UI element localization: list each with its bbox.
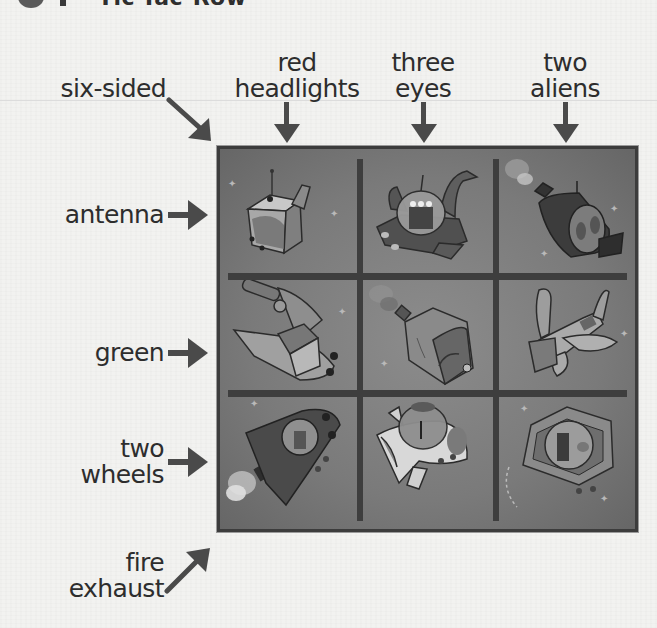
tic-tac-toe-board: ✦ ✦ ✦ ✦ ✦ ✦ ✦ ✦ ✦ ✦ (217, 146, 638, 532)
arrow-down-icon (409, 102, 439, 144)
clue-label-line2: headlights (232, 76, 362, 102)
white-dome-spaceship-icon (363, 397, 493, 527)
grid-cell-r0-c2[interactable] (499, 149, 634, 267)
clue-label-line1: fire (40, 550, 164, 576)
arrow-down-icon (272, 102, 302, 144)
arrow-right-icon (168, 198, 208, 232)
clue-label: antenna (65, 200, 164, 229)
clue-label-line2: exhaust (40, 576, 164, 602)
dome-spaceship-icon (363, 149, 493, 273)
clue-label-line2: eyes (368, 76, 478, 102)
clue-red-headlights: red headlights (232, 50, 362, 102)
winged-spaceship-icon (499, 280, 634, 390)
dark-spaceship-two-aliens-icon (499, 149, 634, 273)
hexagonal-spaceship-icon (363, 280, 493, 390)
puzzle-number-badge-icon (18, 0, 44, 8)
clue-label-line1: red (232, 50, 362, 76)
grid-cell-r0-c1[interactable] (363, 149, 498, 267)
clue-label: green (95, 338, 164, 367)
clue-two-aliens: two aliens (510, 50, 620, 102)
page-header: Tic-Tac-Row (0, 0, 657, 10)
clue-label-line1: two (510, 50, 620, 76)
clue-label-line2: aliens (510, 76, 620, 102)
clue-fire-exhaust: fire exhaust (40, 550, 164, 602)
clue-label-line2: wheels (40, 462, 164, 488)
clue-label-line1: two (40, 436, 164, 462)
grid-cell-r2-c2[interactable] (499, 397, 634, 515)
grid-cell-r1-c2[interactable] (499, 280, 634, 398)
clue-two-wheels: two wheels (40, 436, 164, 488)
clue-label: six-sided (61, 74, 166, 103)
grid-cell-r0-c0[interactable] (222, 149, 357, 267)
clue-label-line1: three (368, 50, 478, 76)
clue-green: green (40, 340, 164, 366)
six-sided-spaceship-icon (499, 397, 634, 527)
grid-line-horizontal (228, 273, 627, 280)
arrow-diagonal-down-right-icon (166, 97, 216, 143)
dark-spaceship-fire-exhaust-icon (222, 397, 357, 527)
cube-spaceship-icon (222, 149, 357, 273)
clue-antenna: antenna (40, 202, 164, 228)
arrow-right-icon (168, 445, 208, 479)
rocket-spaceship-icon (222, 280, 357, 390)
puzzle-number (60, 0, 66, 6)
clue-six-sided: six-sided (56, 76, 166, 102)
grid-cell-r2-c0[interactable] (222, 397, 357, 515)
grid-cell-r2-c1[interactable] (363, 397, 498, 515)
clue-three-eyes: three eyes (368, 50, 478, 102)
arrow-down-icon (551, 102, 581, 144)
grid-cell-r1-c0[interactable] (222, 280, 357, 398)
arrow-right-icon (168, 336, 208, 370)
arrow-diagonal-up-right-icon (164, 544, 214, 594)
puzzle-title: Tic-Tac-Row (98, 0, 247, 10)
grid-cell-r1-c1[interactable] (363, 280, 498, 398)
